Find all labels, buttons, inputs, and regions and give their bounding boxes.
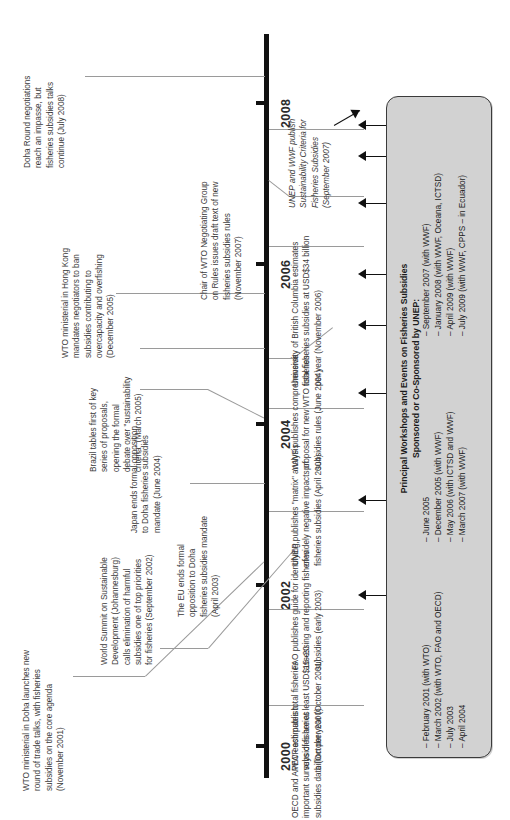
- connector-wto-ministerial-doha-a: [73, 676, 145, 677]
- arrow-to-box-3: [358, 151, 386, 162]
- caption-eu-ends-opposition: The EU ends formal opposition to Doha fi…: [176, 497, 221, 617]
- tick-2008: [256, 101, 269, 105]
- arrow-to-box-7: [358, 388, 386, 399]
- caption-wto-hong-kong: WTO ministerial in Hong Kong mandates ne…: [60, 168, 117, 358]
- tick-2000: [256, 744, 269, 748]
- timeline-axis: [264, 34, 269, 778]
- caption-world-summit-johannesburg: World Summit on Sustainable Development …: [99, 503, 156, 665]
- arrow-to-box-4: [358, 198, 386, 209]
- connector-japan-ends-opposition-a: [140, 389, 208, 390]
- caption-oecd-apec-surveys: OECD and APEC each publish important sur…: [290, 650, 324, 818]
- connector-brazil-tables-proposals: [140, 348, 265, 349]
- callout-box-column-2: – June 2005 – December 2005 (with WWF) –…: [421, 352, 469, 542]
- timeline-diagram: 2008 2006 2004 2002 2000 Doha Round nego…: [0, 0, 510, 820]
- arrow-to-box-9: [358, 590, 386, 601]
- callout-box-title: Principal Workshops and Events on Fisher…: [398, 101, 422, 656]
- tick-2004: [256, 422, 269, 426]
- connector-world-summit-a: [160, 648, 208, 649]
- connector-japan-ends-opposition-diag: [208, 389, 265, 418]
- arrow-to-box-6: [358, 320, 386, 331]
- arrow-to-box-8: [358, 495, 386, 506]
- caption-doha-round-impasse: Doha Round negotiations reach an impasse…: [22, 18, 67, 168]
- arrow-to-box-5: [358, 269, 386, 280]
- connector-eu-ends-opposition: [190, 483, 265, 484]
- caption-wto-ministerial-doha: WTO ministerial in Doha launches new rou…: [21, 607, 66, 791]
- caption-chair-wto-draft-text: Chair of WTO Negotiating Group on Rules …: [199, 125, 244, 300]
- connector-doha-round-impasse: [85, 76, 265, 77]
- callout-box-column-3: – September 2007 (with WWF) – January 20…: [421, 146, 469, 336]
- arrow-to-box-2: [358, 120, 386, 131]
- tick-2006: [256, 262, 269, 266]
- callout-box-column-1: – February 2001 (with WTO) – March 2002 …: [421, 558, 469, 748]
- caption-unep-wwf-criteria: UNEP and WWF publish Sustainability Crit…: [287, 90, 332, 208]
